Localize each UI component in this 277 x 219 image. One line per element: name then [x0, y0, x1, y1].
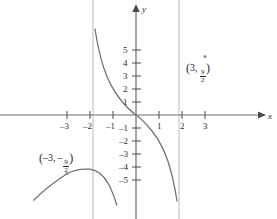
x-tick-label--2: –2 [83, 122, 92, 131]
y-axis-label: y [142, 5, 146, 14]
y-tick-label-5: 5 [123, 46, 128, 55]
x-tick-label-1: 1 [157, 122, 162, 131]
y-tick-label-3: 3 [123, 72, 128, 81]
x-tick-label-3: 3 [203, 122, 208, 131]
annotation-fraction: 92 [200, 69, 206, 85]
x-tick-label--1: –1 [106, 122, 115, 131]
paren-close: ) [206, 61, 210, 75]
function-graph-svg [0, 0, 277, 219]
y-tick-label--3: –3 [119, 150, 128, 159]
y-tick-label-4: 4 [123, 59, 128, 68]
x-axis-label-text: x [268, 111, 272, 121]
annotation-separator: , [53, 152, 56, 163]
x-tick-label--3: –3 [60, 122, 69, 131]
y-axis-arrow [132, 4, 139, 12]
fraction-denominator: 2 [63, 167, 69, 174]
y-tick-label--5: –5 [119, 176, 128, 185]
y-tick-label-1: 1 [123, 98, 128, 107]
fraction-denominator: 2 [200, 77, 206, 84]
annotation-x-value: –3 [43, 152, 53, 163]
x-axis-arrow [258, 111, 266, 118]
annotation-fraction: 92 [63, 159, 69, 175]
y-tick-label--2: –2 [119, 137, 128, 146]
y-tick-label--1: –1 [119, 124, 128, 133]
point-label-right-minimum: (3, 92) [186, 62, 210, 84]
x-tick-label-2: 2 [180, 122, 185, 131]
annotation-separator: , [195, 62, 198, 73]
paren-close: ) [69, 151, 73, 165]
y-tick-label--4: –4 [119, 163, 128, 172]
graph-figure: y x –3 –2 –1 1 2 3 5 4 3 2 1 –1 –2 –3 –4… [0, 0, 277, 219]
y-axis-label-text: y [142, 4, 146, 14]
curve-left-branch [34, 169, 117, 205]
y-tick-label-2: 2 [123, 85, 128, 94]
point-marker-right [204, 55, 207, 58]
x-axis-label: x [268, 112, 272, 121]
point-label-left-maximum: (–3, –92) [39, 152, 73, 174]
annotation-y-sign: – [58, 152, 63, 163]
